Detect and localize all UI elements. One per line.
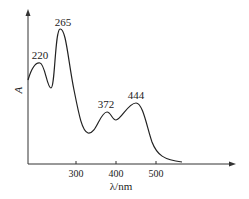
y-axis-label: A [12,86,24,94]
absorption-spectrum-chart: 300 400 500 λ/nm A 220 265 372 444 [0,0,249,199]
peak-label-372: 372 [98,98,115,110]
x-axis-label: λ/nm [110,180,133,192]
tick-label-500: 500 [149,168,164,179]
y-axis-arrow-icon [26,9,31,16]
tick-label-300: 300 [69,168,84,179]
spectrum-curve [28,29,182,162]
peak-label-265: 265 [55,16,72,28]
peak-label-444: 444 [128,89,145,101]
x-axis-arrow-icon [229,162,236,167]
peak-label-220: 220 [32,49,49,61]
tick-label-400: 400 [109,168,124,179]
